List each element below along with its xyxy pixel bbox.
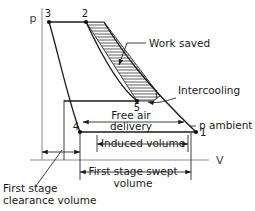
hatch-lines — [84, 22, 162, 100]
pressure-axis-label: p — [30, 12, 37, 25]
pv-diagram: p V — [0, 0, 255, 211]
point-label-i: i — [155, 89, 158, 100]
swept-volume-label-line1: First stage swept — [88, 165, 177, 177]
point-marker-3 — [47, 20, 51, 24]
induced-volume-dimension: Induced volume — [97, 135, 188, 152]
work-saved-label: Work saved — [149, 37, 210, 49]
free-air-delivery-label-line2: delivery — [110, 120, 152, 132]
curve-3-to-4-reexpansion — [49, 22, 80, 132]
free-air-delivery-dimension: Free air delivery — [83, 109, 184, 132]
point-label-4: 4 — [73, 121, 79, 132]
work-saved-hatch-region — [84, 22, 162, 101]
p-ambient-label: p ambient — [199, 119, 252, 131]
clearance-volume-leader-line — [36, 150, 62, 186]
induced-volume-label: Induced volume — [101, 137, 185, 149]
point-label-2: 2 — [82, 8, 88, 19]
point-marker-2 — [84, 20, 88, 24]
volume-axis-label: V — [216, 154, 224, 167]
work-saved-leader-line — [119, 43, 146, 65]
swept-volume-label-line2: volume — [114, 177, 153, 189]
point-label-3: 3 — [45, 8, 51, 19]
intercooling-label: Intercooling — [178, 84, 240, 96]
clearance-volume-label-line1: First stage — [3, 182, 58, 194]
intercooling-annotation: Intercooling — [148, 84, 240, 103]
figure-canvas: p V — [0, 0, 255, 211]
point-marker-1 — [194, 130, 198, 134]
p-ambient-annotation: p ambient — [189, 119, 252, 131]
clearance-volume-label-line2: clearance volume — [3, 194, 96, 206]
first-stage-clearance-volume-dimension: First stage clearance volume — [3, 100, 96, 206]
